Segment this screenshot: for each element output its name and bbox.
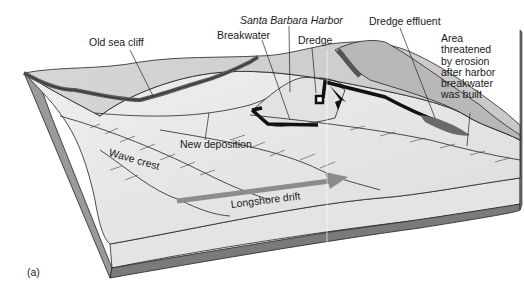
label-area-threatened: Area threatened by erosion after harbor … <box>441 33 495 101</box>
label-dredge-effluent: Dredge effluent <box>369 15 441 27</box>
label-breakwater: Breakwater <box>217 29 270 41</box>
label-santa-barbara-harbor: Santa Barbara Harbor <box>240 14 343 26</box>
dredge-vessel <box>316 96 323 103</box>
label-new-deposition: New deposition <box>180 138 252 150</box>
label-old-sea-cliff: Old sea cliff <box>89 36 144 48</box>
block-right-face <box>520 30 522 210</box>
label-dredge: Dredge <box>298 34 332 46</box>
panel-label: (a) <box>27 266 40 278</box>
diagram-stage: Old sea cliff Breakwater Santa Barbara H… <box>0 0 524 301</box>
